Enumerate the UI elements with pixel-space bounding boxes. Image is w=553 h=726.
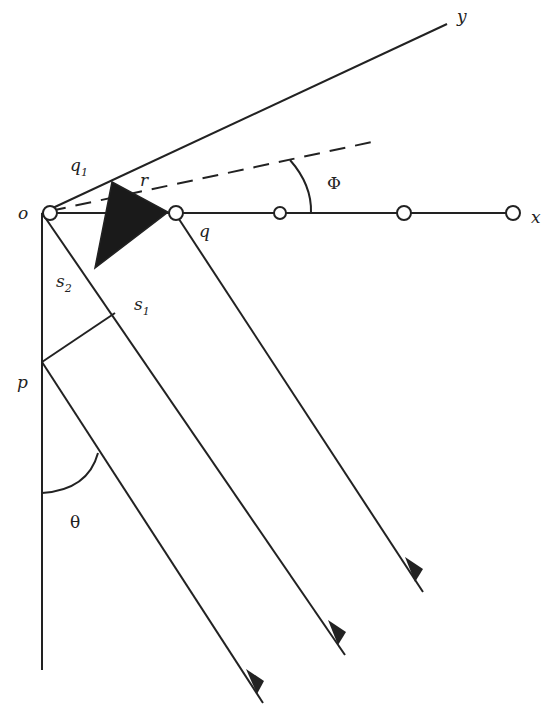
incident-ray-o <box>42 213 345 655</box>
y-axis-line <box>42 24 447 213</box>
shaded-triangle <box>95 182 168 268</box>
sensor-circle <box>274 207 286 219</box>
label-s2: s2 <box>56 271 72 295</box>
phi-angle-arc <box>290 160 311 213</box>
label-origin: o <box>18 203 28 223</box>
label-theta: θ <box>70 512 80 532</box>
sensor-circle <box>169 206 183 220</box>
sensor-circle <box>397 206 411 220</box>
wavefront-segment-s1 <box>42 313 115 362</box>
sensor-circle <box>43 206 57 220</box>
phi-direction-dashed-line <box>50 142 372 211</box>
array-geometry-diagram: o x y q1 r q s2 s1 p Φ θ <box>0 0 553 726</box>
label-p: p <box>17 372 28 392</box>
label-q: q <box>199 221 210 241</box>
label-q1: q1 <box>70 155 88 179</box>
incident-ray-p <box>42 362 263 703</box>
label-r: r <box>140 170 149 190</box>
incident-ray-q <box>175 213 423 592</box>
theta-angle-arc <box>42 453 98 493</box>
label-x-axis: x <box>531 207 541 227</box>
label-s1: s1 <box>134 294 150 318</box>
label-phi: Φ <box>327 173 341 193</box>
sensor-circle <box>506 206 520 220</box>
label-y-axis: y <box>456 6 467 26</box>
